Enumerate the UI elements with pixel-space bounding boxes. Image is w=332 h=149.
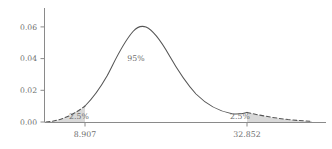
- y-tick-label-0: 0.00: [20, 118, 37, 127]
- distribution-chart: 0.00 0.02 0.04 0.06 8.907 32.852 95% 2.5…: [0, 0, 332, 149]
- y-tick-label-1: 0.02: [20, 86, 37, 95]
- annotation-right-tail-area: 2.5%: [230, 112, 250, 121]
- annotation-central-area: 95%: [127, 54, 144, 63]
- x-tick-label-lower-bound: 8.907: [74, 130, 96, 139]
- y-axis-ticks: [41, 27, 45, 122]
- chart-canvas: 0.00 0.02 0.04 0.06 8.907 32.852 95% 2.5…: [0, 0, 332, 149]
- annotation-left-tail-area: 2.5%: [69, 112, 89, 121]
- density-curve-solid: [85, 26, 247, 114]
- x-axis-ticks: [85, 123, 247, 127]
- x-tick-label-upper-bound: 32.852: [233, 130, 260, 139]
- y-tick-label-3: 0.06: [20, 23, 37, 32]
- y-tick-label-2: 0.04: [20, 54, 37, 63]
